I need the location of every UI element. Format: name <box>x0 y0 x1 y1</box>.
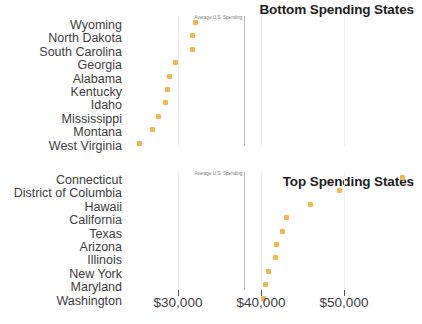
category-axis-top-spending: Connecticut District of Columbia Hawaii … <box>0 174 122 308</box>
gridline <box>261 16 262 146</box>
average-spending-annotation: Average U.S. Spending <box>156 171 242 177</box>
data-point[interactable] <box>263 282 268 287</box>
data-point[interactable] <box>308 202 313 207</box>
category-label: Montana <box>0 126 122 139</box>
category-label: Texas <box>0 228 122 241</box>
category-label: North Dakota <box>0 32 122 45</box>
data-point[interactable] <box>193 20 198 25</box>
data-point[interactable] <box>273 255 278 260</box>
gridline <box>261 172 262 290</box>
data-point[interactable] <box>163 100 168 105</box>
gridline <box>178 16 179 146</box>
average-spending-line <box>244 172 245 290</box>
data-point[interactable] <box>156 114 161 119</box>
data-point[interactable] <box>137 141 142 146</box>
x-tick-label: $30,000 <box>154 295 203 310</box>
data-point[interactable] <box>266 269 271 274</box>
data-point[interactable] <box>274 242 279 247</box>
data-point[interactable] <box>280 229 285 234</box>
category-label: Alabama <box>0 73 122 86</box>
data-point[interactable] <box>284 215 289 220</box>
average-spending-line <box>244 16 245 146</box>
category-label: District of Columbia <box>0 187 122 200</box>
plot-area-bottom-spending: Wyoming North Dakota South Carolina Geor… <box>0 0 422 162</box>
category-label: Wyoming <box>0 19 122 32</box>
category-label: Illinois <box>0 254 122 267</box>
category-label: Connecticut <box>0 174 122 187</box>
average-spending-annotation: Average U.S. Spending <box>156 15 242 21</box>
category-label: Mississippi <box>0 113 122 126</box>
data-point[interactable] <box>190 47 195 52</box>
gridline <box>178 172 179 290</box>
data-point[interactable] <box>337 188 342 193</box>
category-label: Arizona <box>0 241 122 254</box>
category-label: New York <box>0 268 122 281</box>
data-point[interactable] <box>173 60 178 65</box>
category-label: Idaho <box>0 99 122 112</box>
data-point[interactable] <box>190 33 195 38</box>
category-label: Georgia <box>0 59 122 72</box>
category-label: South Carolina <box>0 46 122 59</box>
data-point[interactable] <box>165 87 170 92</box>
chart-panel-bottom-spending: Bottom Spending States Wyoming North Dak… <box>0 0 422 162</box>
category-axis-bottom-spending: Wyoming North Dakota South Carolina Geor… <box>0 19 122 153</box>
x-tick-label: $40,000 <box>237 295 286 310</box>
gridline <box>344 16 345 146</box>
data-point[interactable] <box>167 74 172 79</box>
category-label: Kentucky <box>0 86 122 99</box>
x-tick-label: $50,000 <box>320 295 369 310</box>
x-axis: $30,000$40,000$50,000 <box>0 290 422 324</box>
gridline <box>344 172 345 290</box>
category-label: California <box>0 214 122 227</box>
data-point[interactable] <box>150 127 155 132</box>
category-label: Hawaii <box>0 201 122 214</box>
data-point[interactable] <box>400 175 405 180</box>
